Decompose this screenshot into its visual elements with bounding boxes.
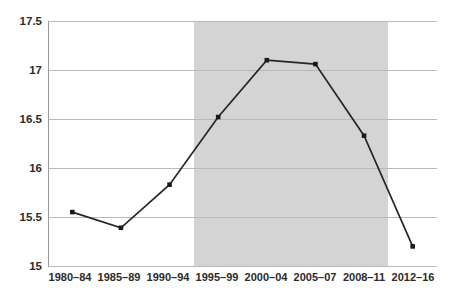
x-tick-label-5: 2005–07 bbox=[294, 270, 337, 284]
data-point-marker bbox=[70, 210, 75, 215]
x-tick-label-6: 2008–11 bbox=[343, 270, 385, 284]
data-point-marker bbox=[265, 58, 270, 63]
x-tick-label-0: 1980–84 bbox=[49, 270, 92, 284]
data-point-marker bbox=[313, 62, 318, 67]
series-markers bbox=[70, 58, 415, 249]
data-series-layer bbox=[0, 0, 453, 299]
data-point-marker bbox=[119, 225, 124, 230]
x-tick-label-4: 2000–04 bbox=[245, 270, 288, 284]
data-point-marker bbox=[410, 244, 415, 249]
x-tick-label-2: 1990–94 bbox=[147, 270, 190, 284]
data-point-marker bbox=[167, 182, 172, 187]
data-point-marker bbox=[362, 133, 367, 138]
x-tick-label-7: 2012–16 bbox=[392, 270, 435, 284]
x-axis-tick-labels: 1980–84 1985–89 1990–94 1995–99 2000–04 … bbox=[48, 270, 437, 290]
data-point-marker bbox=[216, 115, 221, 120]
series-line bbox=[72, 60, 412, 246]
x-tick-label-1: 1985–89 bbox=[98, 270, 141, 284]
x-tick-label-3: 1995–99 bbox=[196, 270, 239, 284]
line-chart: 17.5 17 16.5 16 15.5 15 1980–84 1985–89 … bbox=[0, 0, 453, 299]
